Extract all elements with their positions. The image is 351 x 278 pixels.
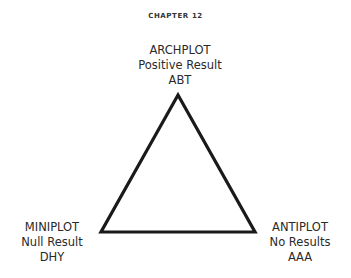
triangle-shape: [101, 95, 255, 232]
vertex-title: ANTIPLOT: [250, 220, 350, 235]
vertex-label-antiplot: ANTIPLOT No Results AAA: [250, 220, 350, 265]
vertex-code: DHY: [2, 250, 102, 265]
vertex-subtitle: Null Result: [2, 235, 102, 250]
vertex-title: MINIPLOT: [2, 220, 102, 235]
vertex-subtitle: No Results: [250, 235, 350, 250]
vertex-label-miniplot: MINIPLOT Null Result DHY: [2, 220, 102, 265]
vertex-code: AAA: [250, 250, 350, 265]
